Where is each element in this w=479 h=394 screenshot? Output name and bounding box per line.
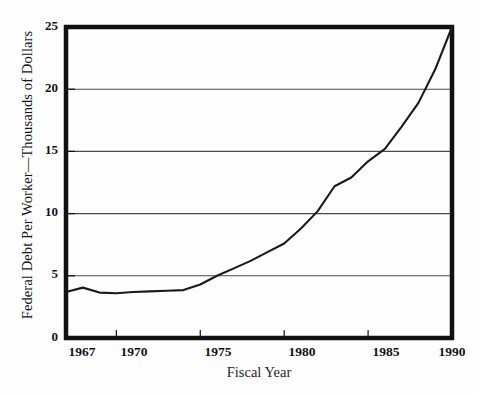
axis-ticks-group [68, 89, 368, 336]
gridlines-group [66, 89, 452, 276]
plot-frame [66, 27, 452, 338]
plot-canvas [0, 0, 479, 394]
data-line-series-0 [66, 27, 452, 293]
chart-figure: Federal Debt Per Worker—Thousands of Dol… [0, 0, 479, 394]
